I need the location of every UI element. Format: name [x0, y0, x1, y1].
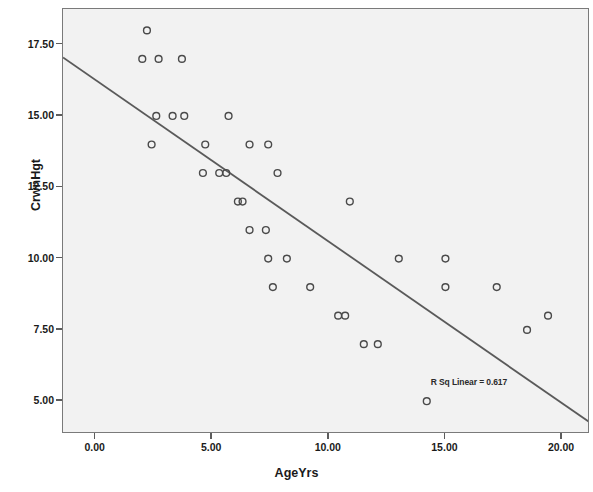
data-point: [545, 312, 552, 319]
data-point: [200, 170, 207, 177]
data-point: [144, 27, 151, 34]
y-axis-title: CrwnHgt: [29, 125, 43, 245]
data-point: [239, 198, 246, 205]
x-tick-mark: [444, 433, 446, 439]
x-tick-label: 20.00: [531, 441, 591, 453]
y-tick-label: 7.50: [8, 323, 54, 335]
data-point: [346, 198, 353, 205]
y-tick-label: 5.00: [8, 394, 54, 406]
data-point: [246, 227, 253, 234]
data-point: [374, 341, 381, 348]
y-tick-mark: [56, 43, 62, 45]
y-tick-mark: [56, 328, 62, 330]
data-point: [216, 170, 223, 177]
data-point: [269, 284, 276, 291]
data-point: [155, 56, 162, 63]
data-point: [342, 312, 349, 319]
data-point: [442, 255, 449, 262]
data-point: [181, 113, 188, 120]
x-tick-mark: [560, 433, 562, 439]
x-tick-label: 0.00: [65, 441, 125, 453]
y-tick-mark: [56, 257, 62, 259]
data-point: [265, 255, 272, 262]
data-point: [139, 56, 146, 63]
data-point: [274, 170, 281, 177]
data-point: [423, 398, 430, 405]
scatterplot-chart: 5.007.5010.0012.5015.0017.50 0.005.0010.…: [0, 0, 593, 492]
x-tick-label: 15.00: [414, 441, 474, 453]
plot-area: [62, 8, 589, 433]
data-point: [169, 113, 176, 120]
data-point: [360, 341, 367, 348]
x-tick-label: 10.00: [298, 441, 358, 453]
plot-canvas: [63, 9, 589, 433]
data-point: [225, 113, 232, 120]
data-point: [307, 284, 314, 291]
data-point: [283, 255, 290, 262]
x-tick-mark: [327, 433, 329, 439]
data-point: [335, 312, 342, 319]
y-tick-mark: [56, 399, 62, 401]
x-axis-title: AgeYrs: [0, 466, 593, 480]
data-point: [246, 141, 253, 148]
r-squared-annotation: R Sq Linear = 0.617: [431, 377, 507, 387]
y-axis-tick-labels: 5.007.5010.0012.5015.0017.50: [0, 0, 54, 492]
y-tick-label: 10.00: [8, 252, 54, 264]
data-point: [493, 284, 500, 291]
x-tick-mark: [94, 433, 96, 439]
data-point: [153, 113, 160, 120]
y-tick-label: 15.00: [8, 109, 54, 121]
data-point: [524, 326, 531, 333]
x-tick-label: 5.00: [181, 441, 241, 453]
data-point: [148, 141, 155, 148]
data-point: [262, 227, 269, 234]
data-point: [442, 284, 449, 291]
y-tick-mark: [56, 114, 62, 116]
data-point: [179, 56, 186, 63]
data-point: [395, 255, 402, 262]
data-point: [265, 141, 272, 148]
y-tick-label: 17.50: [8, 38, 54, 50]
y-tick-mark: [56, 186, 62, 188]
x-tick-mark: [210, 433, 212, 439]
regression-line: [63, 57, 589, 422]
data-point: [202, 141, 209, 148]
